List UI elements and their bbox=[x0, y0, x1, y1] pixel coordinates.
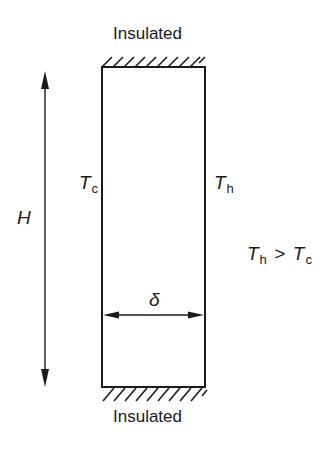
height-label: H bbox=[17, 207, 31, 229]
width-dimension-arrow bbox=[103, 312, 204, 319]
bottom-insulated-label: Insulated bbox=[113, 407, 182, 427]
top-insulation-hatch bbox=[102, 57, 205, 67]
width-label: δ bbox=[149, 289, 160, 311]
hot-wall-subscript: h bbox=[227, 181, 234, 196]
hot-wall-temperature-label: Th bbox=[214, 172, 234, 194]
condition-rhs-symbol: T bbox=[293, 243, 305, 264]
height-dimension-arrow bbox=[41, 71, 49, 387]
condition-rhs-subscript: c bbox=[305, 252, 312, 267]
bottom-insulation-hatch bbox=[103, 388, 207, 401]
enclosure-diagram bbox=[0, 0, 334, 449]
cold-wall-temperature-label: Tc bbox=[79, 172, 98, 194]
condition-operator: > bbox=[274, 243, 285, 264]
cavity-rectangle bbox=[102, 67, 205, 387]
hot-wall-symbol: T bbox=[214, 172, 226, 193]
cold-wall-subscript: c bbox=[92, 181, 99, 196]
top-insulated-label: Insulated bbox=[113, 24, 182, 44]
condition-lhs-symbol: T bbox=[247, 243, 259, 264]
condition-lhs-subscript: h bbox=[260, 252, 267, 267]
cold-wall-symbol: T bbox=[79, 172, 91, 193]
temperature-condition: Th > Tc bbox=[247, 243, 312, 265]
